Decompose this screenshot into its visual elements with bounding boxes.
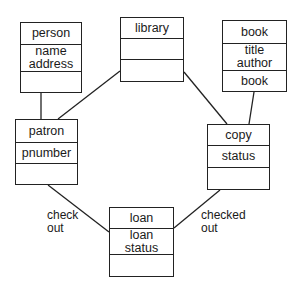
attributes: name address (21, 45, 81, 72)
attributes: pnumber (16, 143, 77, 164)
link-book-copy (249, 92, 254, 124)
class-patron[interactable]: patron pnumber (15, 119, 78, 185)
label-check-out: check out (47, 209, 78, 235)
operations (21, 72, 81, 92)
attribute: status (222, 150, 255, 163)
class-title: book (241, 26, 268, 39)
class-name: person (21, 23, 81, 45)
class-name: book (223, 21, 286, 44)
class-library[interactable]: library (120, 17, 184, 82)
class-name: copy (208, 125, 269, 146)
class-copy[interactable]: copy status (207, 124, 270, 190)
class-title: loan (130, 212, 154, 225)
label-line: out (201, 222, 246, 235)
operations (110, 255, 173, 276)
attribute: author (237, 57, 272, 70)
operations: book (223, 71, 286, 91)
class-loan[interactable]: loan loan status (109, 207, 174, 277)
class-name: loan (110, 208, 173, 229)
class-person[interactable]: person name address (20, 22, 82, 93)
attribute: address (29, 58, 73, 71)
attribute: loan (130, 229, 154, 242)
attributes: title author (223, 44, 286, 71)
operations (16, 164, 77, 184)
attribute: status (125, 242, 158, 255)
operations (121, 60, 183, 81)
class-book[interactable]: book title author book (222, 20, 287, 92)
class-title: patron (29, 125, 64, 138)
operations (208, 168, 269, 189)
attributes (121, 39, 183, 60)
attributes: status (208, 146, 269, 168)
operation: book (241, 75, 268, 88)
link-library-copy (184, 72, 227, 124)
label-line: out (47, 222, 78, 235)
label-checked-out: checked out (201, 209, 246, 235)
attributes: loan status (110, 229, 173, 255)
class-title: copy (225, 129, 251, 142)
attribute: pnumber (22, 147, 71, 160)
class-name: patron (16, 120, 77, 143)
class-title: library (135, 22, 169, 35)
class-title: person (32, 27, 70, 40)
class-name: library (121, 18, 183, 39)
